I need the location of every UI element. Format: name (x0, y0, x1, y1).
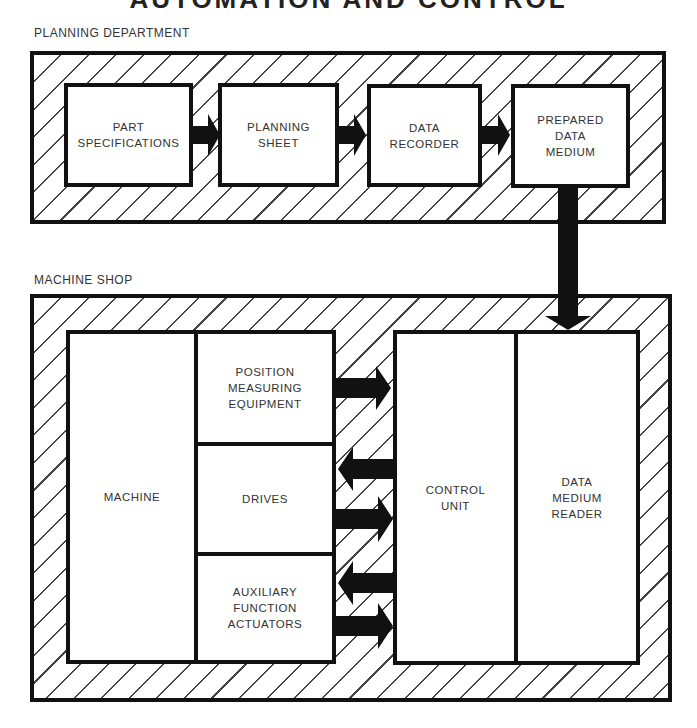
arrow-left-icon (338, 447, 393, 491)
arrow-right-icon (339, 114, 366, 156)
arrows-layer (0, 0, 697, 728)
arrow-right-icon (193, 114, 220, 156)
arrow-left-icon (338, 561, 393, 605)
arrow-right-icon (336, 496, 393, 542)
arrow-right-icon (336, 366, 391, 410)
arrow-right-icon (336, 603, 393, 649)
arrow-down-icon (545, 188, 591, 330)
arrow-right-icon (482, 114, 510, 156)
